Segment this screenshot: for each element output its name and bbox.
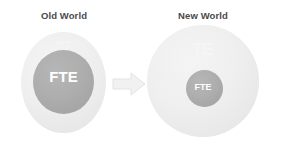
fte-label-new: FTE [147, 83, 259, 92]
old-world-circle-group: PT FTE [21, 32, 106, 133]
page-title-new-world: New World [147, 10, 259, 21]
fte-label-old: FTE [21, 69, 106, 84]
page-title-old-world: Old World [22, 10, 106, 21]
right-arrow-icon [112, 71, 146, 97]
new-world-circle-group: TE FTE [147, 25, 259, 137]
diagram-canvas: Old World New World PT FTE TE FTE [0, 0, 283, 161]
te-label: TE [147, 41, 259, 58]
